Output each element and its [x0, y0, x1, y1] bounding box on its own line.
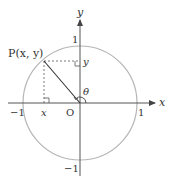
point-p-label: P(x, y) [8, 47, 43, 60]
radius-op [44, 61, 80, 103]
x-neg-one-label: −1 [10, 107, 25, 118]
right-angle-mark-x [44, 98, 49, 103]
x-axis-label: x [159, 96, 166, 109]
proj-y-label: y [82, 56, 89, 67]
x-pos-one-label: 1 [138, 107, 144, 118]
proj-x-label: x [41, 107, 47, 118]
unit-circle-diagram: y x O 1 −1 1 −1 P(x, y) x y θ [0, 0, 171, 182]
right-angle-mark-y [75, 61, 80, 66]
y-neg-one-label: −1 [64, 163, 79, 174]
y-pos-one-label: 1 [72, 34, 78, 45]
y-axis-label: y [76, 6, 84, 19]
origin-label: O [66, 107, 74, 118]
angle-theta-label: θ [83, 86, 89, 97]
